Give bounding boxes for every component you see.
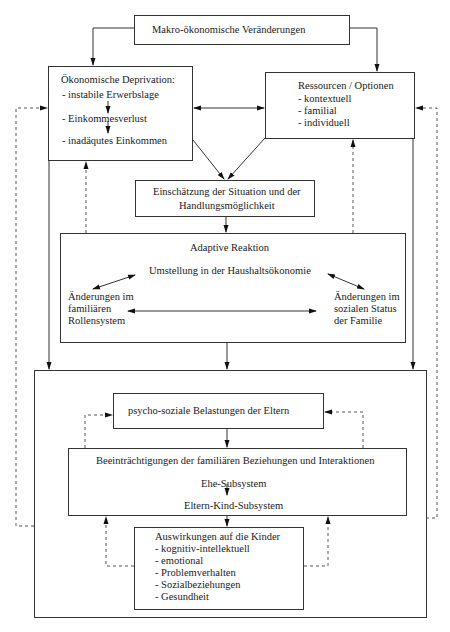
einschaetzung-line1: Einschätzung der Situation und der: [153, 186, 301, 198]
adaptive-left-line: familiären: [68, 303, 111, 315]
ressourcen-item: - familial: [298, 105, 337, 117]
deprivation-title: Ökonomische Deprivation:: [61, 74, 175, 86]
auswirkungen-item: - Problemverhalten: [155, 567, 236, 579]
deprivation-item: - Einkommesverlust: [62, 113, 147, 125]
ressourcen-item: - individuell: [298, 117, 350, 129]
deprivation-item: - inadäqutes Einkommen: [62, 135, 167, 147]
deprivation-item: - instabile Erwerbslage: [62, 89, 159, 101]
adaptive-right-line: sozialen Status: [334, 303, 397, 315]
ressourcen-title: Ressourcen / Optionen: [298, 80, 394, 92]
psycho-label: psycho-soziale Belastungen der Eltern: [128, 405, 289, 417]
adaptive-title: Adaptive Reaktion: [190, 242, 269, 254]
einschaetzung-line2: Handlungsmöglichkeit: [179, 200, 275, 212]
beeintraechtigungen-title: Beeinträchtigungen der familiären Bezieh…: [96, 455, 374, 467]
makro-label: Makro-ökonomische Veränderungen: [152, 24, 305, 36]
auswirkungen-title: Auswirkungen auf die Kinder: [155, 531, 280, 543]
adaptive-right-line: der Familie: [334, 315, 382, 327]
adaptive-left-line: Änderungen im: [68, 291, 134, 303]
adaptive-left-line: Rollensystem: [68, 315, 125, 327]
adaptive-right-line: Änderungen im: [334, 291, 400, 303]
auswirkungen-item: - emotional: [155, 555, 203, 567]
auswirkungen-item: - Gesundheit: [155, 591, 209, 603]
auswirkungen-item: - kognitiv-intellektuell: [155, 543, 250, 555]
eltern-kind-subsystem: Eltern-Kind-Subsystem: [184, 500, 283, 512]
ressourcen-item: - kontextuell: [298, 93, 351, 105]
auswirkungen-item: - Sozialbeziehungen: [155, 579, 240, 591]
adaptive-center: Umstellung in der Haushaltsökonomie: [149, 265, 311, 277]
ehe-subsystem: Ehe-Subsystem: [201, 478, 266, 490]
